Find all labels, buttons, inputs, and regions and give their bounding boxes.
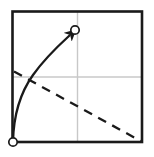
origin-marker-icon xyxy=(9,138,17,146)
diagram-figure xyxy=(0,0,154,157)
diagram-canvas xyxy=(0,0,154,157)
endpoint-marker-icon xyxy=(71,26,79,34)
